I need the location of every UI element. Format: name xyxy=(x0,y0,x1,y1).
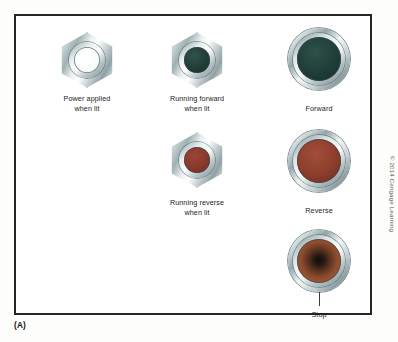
hex-nut-pilot-light-icon[interactable] xyxy=(59,32,115,88)
device-caption: Forward xyxy=(264,104,374,114)
stop-leader-line xyxy=(319,292,320,306)
hex-edge-outline xyxy=(59,32,115,88)
device-running-reverse-pilot-light[interactable]: Running reverse when lit xyxy=(142,132,252,217)
hex-edge-outline xyxy=(169,32,225,88)
device-forward-push-button[interactable]: Forward xyxy=(264,28,374,114)
device-caption: Running reverse when lit xyxy=(142,198,252,217)
button-face-red xyxy=(297,139,341,183)
device-caption: Reverse xyxy=(264,206,374,216)
device-running-forward-pilot-light[interactable]: Running forward when lit xyxy=(142,32,252,113)
figure-frame: Power applied when lit Running forward w… xyxy=(14,14,372,315)
round-push-button-icon[interactable] xyxy=(288,28,350,90)
figure-part-label: (A) xyxy=(14,321,26,330)
copyright-notice: © 2014 Cengage Learning xyxy=(389,156,396,232)
device-power-applied-pilot-light[interactable]: Power applied when lit xyxy=(32,32,142,113)
device-caption: Power applied when lit xyxy=(32,94,142,113)
device-reverse-push-button[interactable]: Reverse xyxy=(264,130,374,216)
hex-nut-pilot-light-icon[interactable] xyxy=(169,132,225,188)
button-face-mushroom xyxy=(297,239,341,283)
device-stop-push-button[interactable]: Stop xyxy=(264,230,374,320)
figure-page: Power applied when lit Running forward w… xyxy=(0,0,398,342)
device-caption: Running forward when lit xyxy=(142,94,252,113)
button-face-green xyxy=(297,37,341,81)
round-mushroom-button-icon[interactable] xyxy=(288,230,350,292)
round-push-button-icon[interactable] xyxy=(288,130,350,192)
device-caption: Stop xyxy=(264,310,374,320)
hex-edge-outline xyxy=(169,132,225,188)
hex-nut-pilot-light-icon[interactable] xyxy=(169,32,225,88)
